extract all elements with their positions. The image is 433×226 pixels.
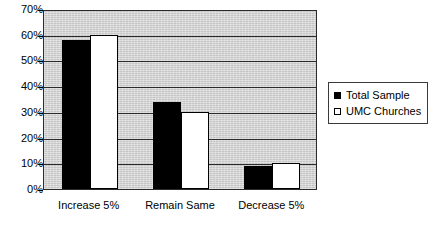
- legend-swatch-filled-square-icon: [334, 92, 341, 99]
- bar-umc-churches-increase-5: [90, 35, 118, 189]
- legend-item-total-sample: Total Sample: [334, 87, 423, 103]
- x-category-label: Increase 5%: [43, 199, 134, 211]
- bar-umc-churches-decrease-5: [272, 163, 300, 189]
- y-tick-mark: [38, 190, 43, 191]
- legend-label: Total Sample: [346, 89, 410, 101]
- bar-total-sample-increase-5: [62, 40, 90, 189]
- x-category-label: Decrease 5%: [226, 199, 317, 211]
- legend-item-umc-churches: UMC Churches: [334, 103, 423, 119]
- y-axis: 0%10%20%30%40%50%60%70%: [0, 0, 43, 200]
- gridline: [44, 36, 316, 37]
- legend-swatch-outline-square-icon: [334, 108, 341, 115]
- x-category-label: Remain Same: [134, 199, 225, 211]
- bar-umc-churches-remain-same: [181, 112, 209, 189]
- chart-legend: Total Sample UMC Churches: [328, 82, 428, 124]
- bar-total-sample-decrease-5: [244, 166, 272, 189]
- plot-area: [43, 10, 317, 190]
- legend-label: UMC Churches: [346, 105, 421, 117]
- bar-total-sample-remain-same: [153, 102, 181, 189]
- bar-chart: 0%10%20%30%40%50%60%70% Increase 5%Remai…: [0, 0, 433, 226]
